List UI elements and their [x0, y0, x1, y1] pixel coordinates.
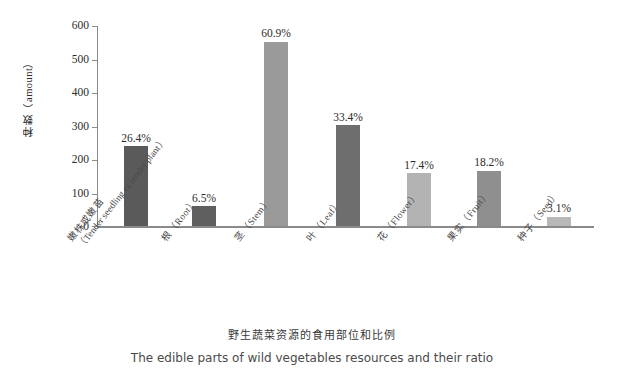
y-tick-label-600: 600 — [55, 20, 89, 32]
y-tick-label-500: 500 — [55, 54, 89, 66]
y-tick-label-100: 100 — [55, 188, 89, 200]
bar-seed — [547, 217, 571, 226]
y-tick-label-200: 200 — [55, 154, 89, 166]
caption-chinese: 野生蔬菜资源的食用部位和比例 — [0, 326, 624, 342]
y-tick-mark-600 — [92, 26, 97, 27]
y-tick-label-300: 300 — [55, 121, 89, 133]
y-tick-mark-500 — [92, 60, 97, 61]
bar-value-label-stem: 60.9% — [261, 28, 291, 40]
bar-value-label-fruit: 18.2% — [474, 157, 504, 169]
y-tick-label-400: 400 — [55, 87, 89, 99]
y-tick-mark-200 — [92, 160, 97, 161]
y-tick-mark-300 — [92, 127, 97, 128]
plot-area: 26.4% 6.5% 60.9% 33.4% 17.4% 18.2% 3.1% — [97, 26, 594, 227]
y-axis-title: 种数（amount） — [22, 56, 38, 137]
y-tick-mark-100 — [92, 194, 97, 195]
bar-value-label-flower: 17.4% — [404, 160, 434, 172]
bar-value-label-leaf: 33.4% — [333, 112, 363, 124]
chart-figure: 种数（amount） 600 500 400 300 200 100 0 26.… — [0, 0, 624, 379]
y-tick-mark-400 — [92, 93, 97, 94]
caption-english: The edible parts of wild vegetables reso… — [0, 351, 624, 365]
